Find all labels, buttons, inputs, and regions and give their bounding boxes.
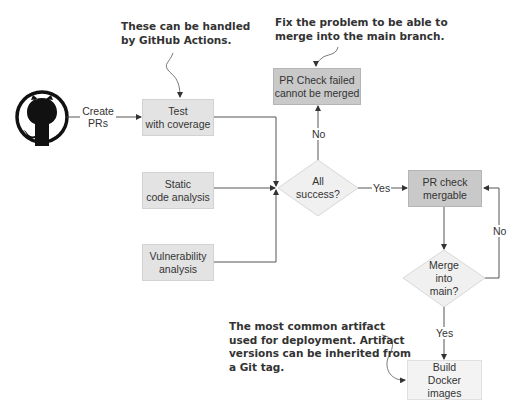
box-text: Build <box>433 361 456 374</box>
annotation-line: a Git tag. <box>229 361 411 375</box>
box-text: images <box>428 387 462 400</box>
pr-check-failed-box: PR Check failed cannot be merged <box>273 68 361 105</box>
annotation-line: The most common artifact <box>229 320 411 334</box>
prs-label: PRs <box>81 117 115 129</box>
annotation-line: versions can be inherited from <box>229 347 411 361</box>
annotation-fix-problem: Fix the problem to be able to merge into… <box>275 16 448 43</box>
diamond-text: success? <box>296 188 340 201</box>
static-code-analysis-box: Static code analysis <box>142 172 214 209</box>
box-text: Static <box>165 178 191 191</box>
annotation-line: Fix the problem to be able to <box>275 16 448 30</box>
pr-check-mergable-box: PR check mergable <box>408 170 482 207</box>
all-yes-label: Yes <box>372 182 391 194</box>
box-text: PR check <box>423 176 468 189</box>
diamond-text: into <box>436 272 453 285</box>
box-text: code analysis <box>146 191 210 204</box>
box-text: analysis <box>159 263 197 276</box>
diamond-text: All <box>312 175 324 188</box>
merge-into-main-text: Merge into main? <box>414 258 474 298</box>
flowchart: Create PRs These can be handled by GitHu… <box>0 0 522 414</box>
merge-yes-label: Yes <box>435 327 454 339</box>
all-no-label: No <box>311 128 326 140</box>
all-success-text: All success? <box>288 174 348 202</box>
box-text: PR Check failed <box>279 74 354 87</box>
box-text: Docker <box>428 374 461 387</box>
annotation-github-actions: These can be handled by GitHub Actions. <box>121 20 250 47</box>
annotation-line: These can be handled <box>121 20 250 34</box>
merge-no-label: No <box>492 225 507 237</box>
build-docker-images-box: Build Docker images <box>407 360 482 400</box>
box-text: mergable <box>423 189 467 202</box>
box-text: with coverage <box>146 118 211 131</box>
diamond-text: Merge <box>429 259 459 272</box>
annotation-artifact: The most common artifact used for deploy… <box>229 320 411 374</box>
github-icon <box>17 92 67 146</box>
diamond-text: main? <box>430 285 459 298</box>
box-text: Test <box>168 105 187 118</box>
annotation-line: used for deployment. Artifact <box>229 334 411 348</box>
create-prs-label: Create PRs <box>80 105 116 129</box>
vulnerability-analysis-box: Vulnerability analysis <box>142 244 214 281</box>
box-text: Vulnerability <box>150 250 207 263</box>
box-text: cannot be merged <box>275 87 360 100</box>
annotation-line: by GitHub Actions. <box>121 34 250 48</box>
test-with-coverage-box: Test with coverage <box>142 99 214 136</box>
create-label: Create <box>81 105 115 117</box>
annotation-line: merge into the main branch. <box>275 30 448 44</box>
